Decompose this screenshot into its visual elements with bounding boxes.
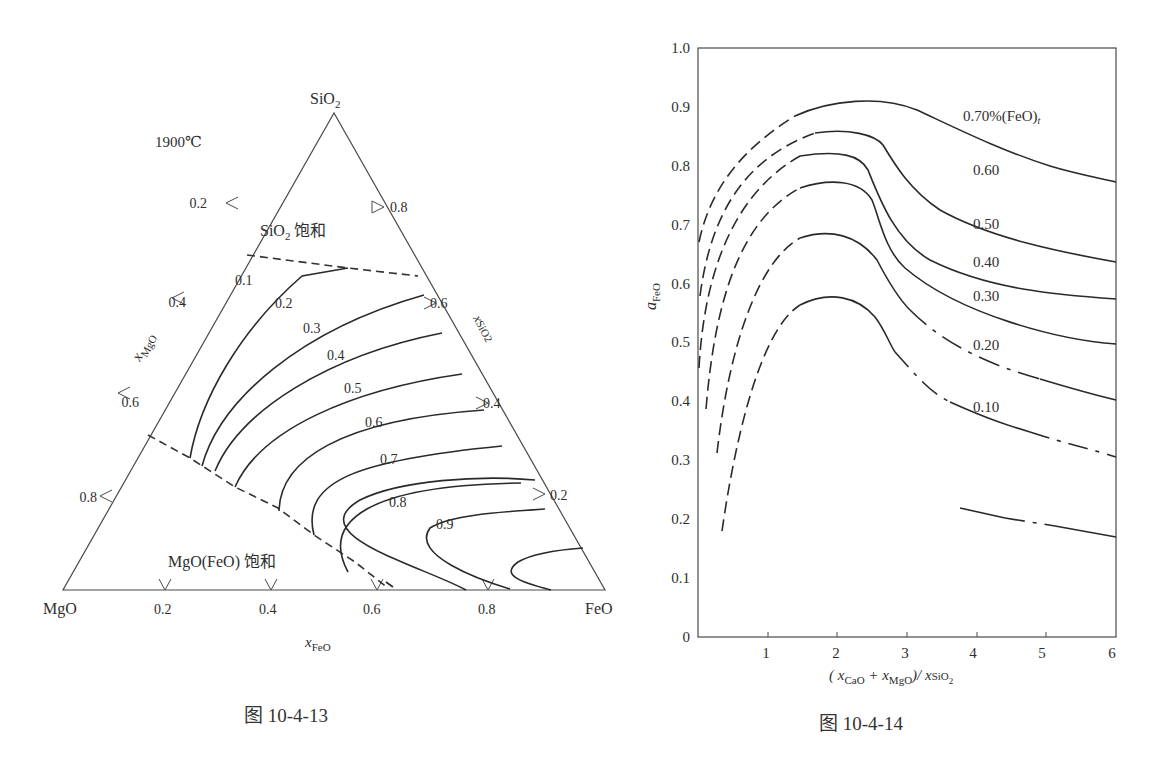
curve-0.20-dashed — [722, 305, 800, 531]
left-tick-0.4: 0.4 — [169, 295, 187, 310]
vertex-mgo-label: MgO — [43, 600, 77, 618]
region-sio2-saturated: SiO2 饱和 — [260, 222, 326, 242]
svg-text:0: 0 — [683, 629, 691, 645]
svg-text:4: 4 — [969, 645, 977, 661]
svg-text:0.1: 0.1 — [671, 570, 690, 586]
caption-figure-10-4-14: 图 10-4-14 — [819, 708, 903, 735]
curve-label-0.70: 0.70%(FeO)t — [963, 108, 1041, 126]
contour-label-0.5: 0.5 — [344, 381, 362, 396]
svg-text:0.5: 0.5 — [671, 334, 690, 350]
plot-frame — [698, 48, 1116, 637]
isoactivity-contours — [190, 268, 583, 590]
figure-canvas: SiO2 MgO FeO 1900℃ 0.2 0.4 0.6 0.8 0.8 0… — [0, 0, 1172, 763]
curve-0.30-dashed — [717, 238, 800, 453]
x-tick-marks — [768, 632, 1046, 637]
svg-text:0.9: 0.9 — [671, 99, 690, 115]
y-axis-title: aFeO — [642, 283, 662, 310]
contour-label-0.1: 0.1 — [235, 273, 253, 288]
curve-0.30-solid-tail — [1040, 379, 1116, 400]
bottom-tick-0.6: 0.6 — [363, 602, 381, 617]
svg-text:0.3: 0.3 — [671, 452, 690, 468]
right-tick-0.8: 0.8 — [390, 200, 408, 215]
left-tick-0.6: 0.6 — [122, 395, 140, 410]
left-tick-0.2: 0.2 — [190, 196, 208, 211]
bottom-tick-0.8: 0.8 — [478, 602, 496, 617]
curve-0.10-tail — [1055, 526, 1116, 537]
bottom-tick-0.4: 0.4 — [259, 602, 277, 617]
curve-0.20-dashdot2 — [1030, 432, 1116, 457]
svg-text:0.2: 0.2 — [671, 511, 690, 527]
contour-0.8 — [344, 478, 535, 590]
bottom-axis-ticks — [159, 579, 494, 590]
curve-label-0.50: 0.50 — [973, 216, 999, 232]
svg-text:2: 2 — [832, 645, 840, 661]
contour-label-0.8: 0.8 — [389, 495, 407, 510]
contour-0.1 — [190, 268, 348, 458]
vertex-feo-label: FeO — [585, 600, 613, 617]
right-tick-0.6: 0.6 — [430, 296, 448, 311]
axis-title-xsio2: xSiO2 — [470, 311, 497, 344]
x-axis-title: ( xCaO + xMgO)/ xSiO2 — [829, 667, 953, 686]
activity-curves — [699, 101, 1116, 537]
curve-label-0.10: 0.10 — [973, 399, 999, 415]
curve-label-0.40: 0.40 — [973, 254, 999, 270]
svg-text:0.8: 0.8 — [671, 158, 690, 174]
right-tick-0.4: 0.4 — [483, 396, 501, 411]
curve-0.10-dashdot — [1005, 518, 1055, 526]
curve-0.50-dashed — [699, 156, 800, 368]
svg-text:1: 1 — [762, 645, 770, 661]
svg-text:0.7: 0.7 — [671, 217, 690, 233]
curve-0.20-dashdot — [895, 352, 950, 402]
curve-0.50-solid — [800, 154, 1116, 299]
right-axis-ticks — [372, 201, 545, 500]
curve-0.70-solid — [795, 101, 1116, 182]
svg-text:5: 5 — [1038, 645, 1046, 661]
contour-label-0.9: 0.9 — [436, 517, 454, 532]
curve-0.40-solid — [800, 182, 1116, 344]
curve-label-0.30: 0.30 — [973, 288, 999, 304]
contour-0.6 — [312, 446, 502, 535]
svg-text:0.4: 0.4 — [671, 393, 690, 409]
y-tick-labels: 0 0.1 0.2 0.3 0.4 0.5 0.6 0.7 0.8 0.9 1.… — [671, 40, 690, 645]
contour-label-0.3: 0.3 — [303, 321, 321, 336]
contour-0.9 — [511, 548, 583, 590]
left-axis-ticks — [100, 197, 238, 502]
svg-text:0.6: 0.6 — [671, 276, 690, 292]
curve-label-0.20: 0.20 — [973, 337, 999, 353]
curve-0.60-solid — [815, 131, 1116, 262]
region-mgo-saturated: MgO(FeO) 饱和 — [168, 553, 276, 571]
curve-label-0.60: 0.60 — [973, 162, 999, 178]
temperature-label: 1900℃ — [155, 134, 202, 150]
left-tick-0.8: 0.8 — [80, 490, 98, 505]
contour-label-0.7: 0.7 — [380, 452, 398, 467]
contour-label-0.2: 0.2 — [275, 296, 293, 311]
svg-text:3: 3 — [901, 645, 909, 661]
bottom-tick-0.2: 0.2 — [154, 602, 172, 617]
svg-text:6: 6 — [1108, 645, 1116, 661]
contour-label-0.6: 0.6 — [365, 415, 383, 430]
contour-label-0.4: 0.4 — [327, 348, 345, 363]
axis-title-xmgo: xMgO — [128, 329, 159, 365]
vertex-sio2-label: SiO2 — [310, 90, 340, 110]
axis-title-xfeo: xFeO — [304, 634, 331, 653]
caption-figure-10-4-13: 图 10-4-13 — [244, 700, 328, 727]
x-tick-labels: 1 2 3 4 5 6 — [762, 645, 1116, 661]
curve-0.10-solid — [960, 508, 1005, 518]
sio2-saturation-boundary — [247, 255, 418, 276]
activity-chart: 0 0.1 0.2 0.3 0.4 0.5 0.6 0.7 0.8 0.9 1.… — [642, 40, 1116, 686]
curve-0.20-solid — [800, 297, 895, 352]
right-tick-0.2: 0.2 — [550, 488, 568, 503]
ternary-diagram: SiO2 MgO FeO 1900℃ 0.2 0.4 0.6 0.8 0.8 0… — [43, 90, 613, 653]
svg-text:1.0: 1.0 — [671, 40, 690, 56]
